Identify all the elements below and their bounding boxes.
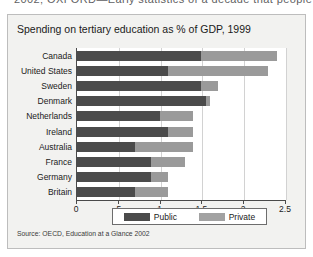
x-axis-line <box>76 200 286 201</box>
scan-top-cutoff-strip: 2002; OXFORD—Early statistics of a decad… <box>0 0 313 13</box>
bar-segment-public[interactable] <box>76 142 135 152</box>
bar-segment-private[interactable] <box>201 81 218 91</box>
bar-row: Sweden <box>76 78 285 93</box>
stacked-bar[interactable] <box>76 66 285 76</box>
category-label: United States <box>21 66 72 76</box>
category-label: Sweden <box>41 81 72 91</box>
bar-segment-private[interactable] <box>160 111 193 121</box>
bar-segment-private[interactable] <box>135 142 194 152</box>
bar-segment-public[interactable] <box>76 172 151 182</box>
bar-segment-public[interactable] <box>76 96 206 106</box>
bar-segment-public[interactable] <box>76 66 168 76</box>
stacked-bar[interactable] <box>76 127 285 137</box>
legend-swatch-private-icon <box>199 213 225 221</box>
chart-legend: Public Private <box>112 208 267 225</box>
legend-label-public: Public <box>154 212 177 222</box>
category-label: Ireland <box>46 127 72 137</box>
bar-segment-private[interactable] <box>168 66 268 76</box>
bar-segment-private[interactable] <box>201 51 276 61</box>
stacked-bar[interactable] <box>76 96 285 106</box>
bar-segment-public[interactable] <box>76 81 201 91</box>
bar-segment-public[interactable] <box>76 111 160 121</box>
category-label: Britain <box>48 187 72 197</box>
category-label: Germany <box>37 172 72 182</box>
chart-title: Spending on tertiary education as % of G… <box>17 23 251 35</box>
stacked-bar[interactable] <box>76 172 285 182</box>
category-label: Canada <box>42 51 72 61</box>
category-label: France <box>46 157 72 167</box>
bar-segment-public[interactable] <box>76 187 135 197</box>
bar-row: Ireland <box>76 124 285 139</box>
bar-row: United States <box>76 63 285 78</box>
stacked-bar[interactable] <box>76 51 285 61</box>
bar-row: Denmark <box>76 94 285 109</box>
bar-row: Canada <box>76 48 285 63</box>
bar-row: Netherlands <box>76 109 285 124</box>
x-tick-label: 0 <box>74 204 79 214</box>
category-label: Netherlands <box>26 111 72 121</box>
bar-row: Germany <box>76 170 285 185</box>
cutoff-text: 2002; OXFORD—Early statistics of a decad… <box>14 0 312 5</box>
stacked-bar[interactable] <box>76 142 285 152</box>
bar-row: France <box>76 154 285 169</box>
stacked-bar[interactable] <box>76 157 285 167</box>
bar-segment-private[interactable] <box>135 187 168 197</box>
chart-figure: Spending on tertiary education as % of G… <box>7 14 306 249</box>
stacked-bar[interactable] <box>76 111 285 121</box>
legend-entry-public[interactable]: Public <box>124 212 177 222</box>
stacked-bar[interactable] <box>76 187 285 197</box>
bar-segment-private[interactable] <box>206 96 210 106</box>
legend-swatch-public-icon <box>124 213 150 221</box>
category-label: Australia <box>39 142 72 152</box>
gridline <box>286 48 287 200</box>
chart-source-note: Source: OECD, Education at a Glance 2002 <box>17 230 150 237</box>
bar-segment-private[interactable] <box>151 172 168 182</box>
bar-segment-private[interactable] <box>151 157 184 167</box>
legend-entry-private[interactable]: Private <box>199 212 255 222</box>
stacked-bar[interactable] <box>76 81 285 91</box>
category-label: Denmark <box>38 96 72 106</box>
bar-row: Britain <box>76 185 285 200</box>
bar-segment-public[interactable] <box>76 127 168 137</box>
legend-label-private: Private <box>229 212 255 222</box>
bar-segment-public[interactable] <box>76 51 201 61</box>
bar-row: Australia <box>76 139 285 154</box>
x-tick-label: 2.5 <box>279 204 291 214</box>
bar-segment-private[interactable] <box>168 127 193 137</box>
bar-segment-public[interactable] <box>76 157 151 167</box>
